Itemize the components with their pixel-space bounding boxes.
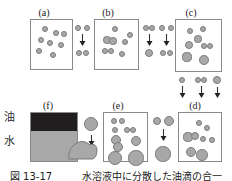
oil-phase-band <box>31 113 77 131</box>
transition-a-b <box>74 24 104 70</box>
oil-droplet-before <box>75 25 81 31</box>
oil-droplet-before <box>149 25 155 31</box>
oil-droplet <box>109 37 116 44</box>
oil-droplet-before <box>84 117 99 132</box>
oil-droplet <box>196 149 208 161</box>
coalesced-pool <box>68 140 98 160</box>
oil-droplet <box>108 48 115 55</box>
oil-droplet <box>127 32 133 38</box>
oil-droplet-after <box>155 146 170 161</box>
panel-label-f: (f) <box>36 101 60 111</box>
transition-c-d-3 <box>212 76 232 122</box>
oil-droplet <box>111 118 117 124</box>
panel-label-c: (c) <box>179 8 203 18</box>
down-arrow-icon <box>78 34 87 46</box>
oil-droplet <box>119 51 125 57</box>
panel-label-e: (e) <box>106 101 130 111</box>
oil-droplet-after <box>145 49 154 58</box>
oil-droplet <box>42 26 48 32</box>
oil-droplet <box>112 127 119 134</box>
oil-droplet <box>50 52 56 58</box>
oil-droplet-before <box>168 25 174 31</box>
down-arrow-icon <box>145 34 154 46</box>
panel-a <box>30 19 73 70</box>
oil-droplet-before <box>84 25 90 31</box>
oil-droplet-after <box>160 50 166 56</box>
oil-droplet <box>38 37 44 43</box>
oil-droplet <box>122 39 128 45</box>
oil-droplet <box>131 136 142 147</box>
figure-caption: 図 13-17 水溶液中に分散した油滴の合一 <box>0 168 232 181</box>
oil-droplet <box>209 137 215 143</box>
transition-d-e <box>152 116 182 162</box>
oil-droplet <box>61 31 67 37</box>
oil-droplet <box>47 40 53 46</box>
oil-droplet-before <box>201 77 207 83</box>
oil-droplet-after <box>167 50 173 56</box>
oil-droplet <box>36 48 42 54</box>
oil-label: 油 <box>4 112 15 123</box>
oil-droplet-after <box>76 50 82 56</box>
oil-droplet <box>207 43 214 50</box>
oil-droplet-before <box>164 116 174 126</box>
oil-droplet-before <box>213 76 222 85</box>
oil-droplet <box>191 132 199 140</box>
down-arrow-icon <box>197 86 206 98</box>
oil-droplet <box>119 118 125 124</box>
oil-droplet-before <box>159 25 165 31</box>
oil-droplet <box>53 30 59 36</box>
panel-label-b: (b) <box>96 8 120 18</box>
transition-b-c-right <box>158 24 188 70</box>
figure-root: (a)(b)(c)(d)(e)(f)油水図 13-17 水溶液中に分散した油滴の… <box>0 0 232 181</box>
water-label: 水 <box>4 136 15 147</box>
down-arrow-icon <box>213 87 222 98</box>
oil-droplet <box>194 35 201 42</box>
oil-droplet <box>204 125 211 132</box>
oil-droplet <box>199 55 209 65</box>
oil-droplet <box>200 26 207 33</box>
oil-droplet <box>186 147 197 158</box>
down-arrow-icon <box>178 86 187 98</box>
oil-droplet <box>130 127 136 133</box>
oil-droplet-before <box>153 117 162 126</box>
oil-droplet <box>58 42 64 48</box>
oil-droplet <box>128 150 143 165</box>
oil-droplet-before <box>179 77 185 83</box>
down-arrow-icon <box>162 34 171 46</box>
down-arrow-icon <box>159 129 168 141</box>
oil-droplet <box>112 26 118 32</box>
oil-droplet <box>200 136 206 142</box>
panel-label-a: (a) <box>32 8 56 18</box>
oil-droplet-after <box>83 50 89 56</box>
